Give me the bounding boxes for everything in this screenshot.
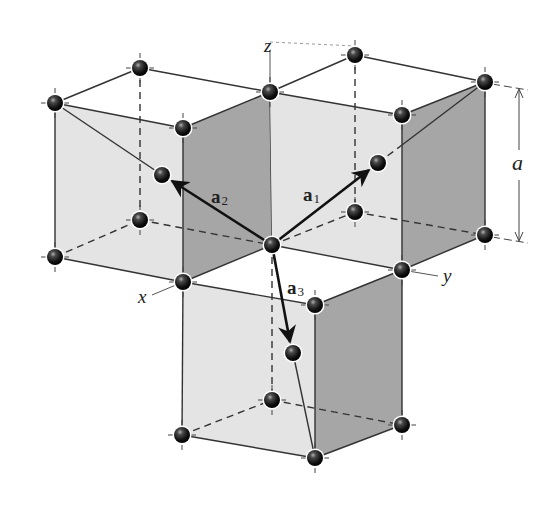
vector-a1-name: a [303,184,313,205]
vector-a3-name: a [287,277,297,298]
vector-a1-label: a1 [303,185,320,204]
atom-lower-bottom-back [264,392,280,408]
atom-lower-body-center [285,345,301,361]
atom-right-bottom-back [347,204,363,220]
bcc-lattice-diagram: z x y a a1 a2 a3 [0,0,556,507]
y-axis-label: y [443,266,451,285]
atom-lower-bottom-right [394,417,410,433]
right-cube-front-face [270,92,402,270]
atom-lower-bottom-front [307,450,323,466]
lattice-svg [0,0,556,507]
atom-left-body-center [154,167,170,183]
vector-a2-subscript: 2 [222,193,229,208]
atom-left-top-front [175,120,191,136]
vector-a2-label: a2 [211,187,228,206]
atom-left-bottom-back [132,212,148,228]
vector-a1-subscript: 1 [314,191,321,206]
atom-right-top-back [347,47,363,63]
atom-left-bottom-left [47,249,63,265]
z-axis-guide [270,42,355,46]
x-axis-label: x [138,287,146,306]
atom-right-top-front [394,107,410,123]
z-axis-label: z [264,36,271,55]
atom-right-bottom-front [394,262,410,278]
atom-lower-top-right [307,297,323,313]
vector-a2-name: a [211,186,221,207]
vector-a3-label: a3 [287,278,304,297]
atom-right-body-center [370,155,386,171]
atom-origin [264,237,280,253]
lower-cube-front-face [182,282,315,458]
atom-left-bottom-front [175,274,191,290]
atom-shared-top [262,84,278,100]
atom-right-bottom-right [477,227,493,243]
left-cube-front-face [55,103,183,282]
atom-lower-bottom-left [174,427,190,443]
vector-a3-subscript: 3 [298,284,305,299]
atom-left-top-left [47,95,63,111]
atom-left-top-back [132,60,148,76]
atom-right-top-right [477,74,493,90]
lattice-constant-label: a [512,152,523,174]
